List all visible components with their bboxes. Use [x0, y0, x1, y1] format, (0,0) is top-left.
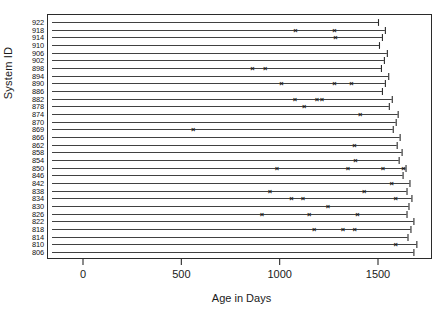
lifeline-row: ×××	[52, 225, 411, 234]
lifeline-row	[52, 234, 408, 241]
lifeline-row	[52, 42, 379, 49]
event-marker-x-icon: ×	[293, 26, 298, 35]
event-marker-x-icon: ×	[353, 225, 358, 234]
event-marker-x-icon: ×	[349, 79, 354, 88]
event-marker-x-icon: ×	[320, 95, 325, 104]
lifeline-row	[52, 172, 403, 179]
event-marker-x-icon: ×	[301, 194, 306, 203]
event-marker-x-icon: ×	[302, 102, 307, 111]
lifeline-row: ×××	[52, 95, 392, 104]
event-marker-x-icon: ×	[191, 125, 196, 134]
event-marker-x-icon: ×	[381, 164, 386, 173]
lifeline-row	[52, 50, 387, 57]
lifeline-row	[52, 149, 402, 156]
event-marker-x-icon: ×	[260, 210, 265, 219]
lifeline-row	[52, 19, 379, 26]
lifeline-row: ××	[52, 64, 381, 73]
lifeline-row: ××××	[52, 164, 406, 173]
lifeline-row: ×	[52, 240, 417, 249]
event-marker-x-icon: ×	[332, 79, 337, 88]
lifeline-row	[52, 119, 396, 126]
event-marker-x-icon: ×	[279, 79, 284, 88]
lifeline-row	[52, 57, 384, 64]
lifeline-row	[52, 218, 414, 225]
y-tick-label: 806	[0, 248, 44, 257]
lifeline-row	[52, 249, 414, 256]
event-marker-x-icon: ×	[341, 225, 346, 234]
event-marker-x-icon: ×	[394, 240, 399, 249]
event-marker-x-icon: ×	[346, 164, 351, 173]
lifeline-row: ×	[52, 125, 393, 134]
lifeline-row: ×××	[52, 210, 407, 219]
event-marker-x-icon: ×	[394, 194, 399, 203]
lifeline-row: ×××	[52, 79, 385, 88]
event-marker-x-icon: ×	[390, 179, 395, 188]
lifeline-row	[52, 73, 389, 80]
event-marker-x-icon: ×	[312, 225, 317, 234]
event-marker-x-icon: ×	[250, 64, 255, 73]
event-marker-x-icon: ×	[307, 210, 312, 219]
x-tick-label: 0	[80, 268, 86, 280]
event-marker-x-icon: ×	[362, 187, 367, 196]
lifeline-row	[52, 134, 400, 141]
lifeline-row: ×××	[52, 194, 412, 203]
lifeline-row: ×	[52, 110, 398, 119]
event-marker-x-icon: ×	[293, 95, 298, 104]
event-marker-x-icon: ×	[326, 202, 331, 211]
lifeline-row: ×	[52, 179, 410, 188]
x-axis-label-text: Age in Days	[174, 292, 271, 304]
lifeline-row: ×	[52, 141, 397, 150]
lifeline-row: ×	[52, 33, 382, 42]
x-tick-label: 500	[172, 268, 190, 280]
lifeline-row	[52, 88, 382, 95]
lifeline-row: ×	[52, 102, 389, 111]
event-marker-x-icon: ×	[263, 64, 268, 73]
lifeline-row: ××	[52, 187, 407, 196]
event-marker-x-icon: ×	[401, 164, 406, 173]
chart-container: System ID ××××××××××××××××××××××××××××××…	[0, 0, 445, 317]
event-marker-x-icon: ×	[275, 164, 280, 173]
event-marker-x-icon: ×	[333, 33, 338, 42]
event-marker-x-icon: ×	[289, 194, 294, 203]
event-marker-x-icon: ×	[353, 156, 358, 165]
event-marker-x-icon: ×	[355, 210, 360, 219]
x-tick-label: 1500	[366, 268, 390, 280]
x-tick-label: 1000	[267, 268, 291, 280]
event-marker-x-icon: ×	[352, 141, 357, 150]
x-axis-label: Age in Days	[0, 292, 445, 304]
event-marker-x-icon: ×	[358, 110, 363, 119]
event-marker-x-icon: ×	[268, 187, 273, 196]
